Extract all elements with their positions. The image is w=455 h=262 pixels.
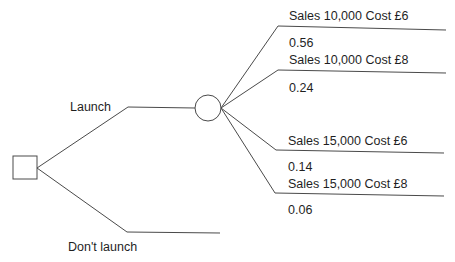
decision-tree-diagram [0, 0, 455, 262]
outcome-probability-3: 0.14 [288, 160, 312, 174]
outcome-probability-1: 0.56 [289, 36, 313, 50]
dont-launch-label: Don't launch [68, 240, 137, 254]
outcome-probability-2: 0.24 [289, 81, 313, 95]
decision-node-square [13, 156, 37, 179]
outcome-label-3: Sales 15,000 Cost £6 [288, 134, 408, 148]
launch-label: Launch [70, 100, 111, 114]
outcome-label-2: Sales 10,000 Cost £8 [289, 53, 409, 67]
outcome-probability-4: 0.06 [288, 203, 312, 217]
outcome-label-4: Sales 15,000 Cost £8 [288, 177, 408, 191]
launch-branch-line [37, 107, 195, 168]
outcome-branch-line-1 [221, 26, 446, 108]
dont-launch-branch-line [37, 168, 220, 233]
outcome-branch-line-2 [221, 70, 446, 108]
outcome-label-1: Sales 10,000 Cost £6 [289, 9, 409, 23]
chance-node-circle [195, 95, 221, 121]
